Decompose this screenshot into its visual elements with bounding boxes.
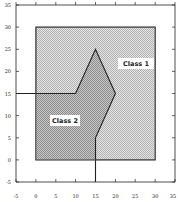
x-tick-label: 25 bbox=[132, 193, 138, 199]
x-tick-label: 30 bbox=[152, 193, 158, 199]
y-tick-label: -5 bbox=[6, 179, 11, 185]
class1-label: Class 1 bbox=[123, 60, 149, 68]
x-tick-label: 15 bbox=[92, 193, 98, 199]
x-tick-label: 35 bbox=[170, 193, 176, 199]
x-tick-label: 20 bbox=[112, 193, 118, 199]
class1-label-box: Class 1 bbox=[118, 58, 154, 69]
x-tick-label: -5 bbox=[14, 193, 19, 199]
x-tick-label: 0 bbox=[34, 193, 37, 199]
y-tick-label: 30 bbox=[5, 24, 11, 30]
y-tick-labels: 35 30 25 20 15 10 5 0 -5 bbox=[5, 2, 11, 185]
x-tick-label: 10 bbox=[72, 193, 78, 199]
y-tick-label: 25 bbox=[5, 46, 11, 52]
x-tick-labels: -5 0 5 10 15 20 25 30 35 bbox=[14, 193, 177, 199]
y-tick-label: 5 bbox=[8, 135, 11, 141]
x-tick-label: 5 bbox=[54, 193, 57, 199]
region-plot: Class 1 Class 2 35 30 25 20 15 bbox=[0, 0, 178, 202]
y-tick-label: 15 bbox=[5, 91, 11, 97]
y-tick-label: 35 bbox=[5, 2, 11, 8]
y-tick-label: 10 bbox=[5, 113, 11, 119]
y-tick-label: 20 bbox=[5, 68, 11, 74]
class2-label: Class 2 bbox=[52, 117, 78, 125]
y-tick-label: 0 bbox=[8, 157, 11, 163]
class2-label-box: Class 2 bbox=[50, 115, 80, 126]
